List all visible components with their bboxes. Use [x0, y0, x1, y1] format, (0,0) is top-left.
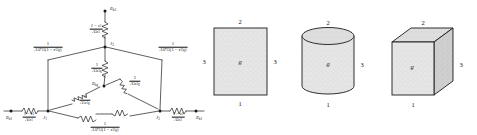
resistor-label-surface-2: 1 − ε2 A2ε2	[172, 112, 185, 123]
node-dots	[10, 10, 198, 113]
rectangle-label-left: 3	[202, 58, 205, 65]
resistor-label-view-12: 1 A1F12(1 − τ12g)	[91, 122, 120, 133]
node-dot-j1	[47, 110, 50, 113]
rectangle-label-bottom: 1	[238, 100, 241, 107]
resistor-label-gas-1: 1 A1ε1g	[79, 95, 90, 106]
wire-ebg-j2-b	[128, 94, 158, 109]
cube-label-bottom: 1	[411, 101, 414, 108]
resistor-surface-3	[102, 22, 108, 38]
resistor-label-gas-2: 1 A2ε2g	[129, 76, 140, 87]
resistor-view-12-right	[112, 110, 128, 116]
node-label-eb1: Eb1	[6, 115, 12, 121]
node-label-ebg: Ebg	[92, 81, 98, 87]
node-dot-ebg	[103, 85, 106, 88]
wire-j1-bottom	[49, 111, 78, 118]
resistor-gas-2	[120, 79, 127, 94]
cylinder-top-ellipse	[302, 28, 354, 45]
cylinder-gas-label: g	[326, 60, 329, 67]
node-label-j1: J1	[43, 115, 47, 121]
rectangle-gas-label: g	[238, 58, 241, 65]
resistor-label-view-23: 1 A2F23(1 − τ23g)	[159, 42, 188, 53]
node-dot-eb3	[104, 10, 107, 13]
wire-j3-j2-upper	[106, 47, 162, 60]
node-dot-j2	[159, 110, 162, 113]
figure-root: Eb3 J3 Ebg J1 J2 Eb1 Eb2 1 − ε3 A3ε3 1 A…	[0, 0, 477, 135]
wire-ebg-j2-a	[106, 79, 120, 85]
resistor-label-surface-1: 1 − ε1 A1ε1	[23, 112, 36, 123]
cylinder-label-bottom: 1	[326, 101, 329, 108]
rectangle-label-top: 2	[238, 18, 241, 25]
wire-j3-j2-lower	[160, 60, 162, 110]
resistor-label-gas-3: 1 A3ε3g	[91, 63, 102, 74]
cube-label-top: 2	[421, 19, 424, 26]
resistor-label-surface-3: 1 − ε3 A3ε3	[90, 24, 103, 35]
shape-cube	[392, 28, 453, 95]
resistor-label-view-13: 1 A1F13(1 − τ13g)	[34, 42, 63, 53]
wire-j2-bottom	[130, 111, 159, 116]
rectangle-label-right: 3	[273, 58, 276, 65]
node-dot-j3	[104, 46, 107, 49]
enclosure-shapes-panel: 2 3 1 3 g 2 3 1 g 2 3 1 g	[190, 0, 477, 135]
cube-label-right: 3	[459, 61, 462, 68]
resistor-gas-3	[102, 61, 108, 77]
shapes-svg	[190, 0, 477, 135]
wire-ebg-j1-b	[50, 104, 72, 110]
node-label-j2: J2	[156, 115, 160, 121]
node-label-eb3: Eb3	[110, 6, 116, 12]
cylinder-label-right: 3	[360, 61, 363, 68]
node-dot-eb1	[10, 110, 13, 113]
cylinder-label-top: 2	[326, 19, 329, 26]
node-label-j3: J3	[110, 41, 114, 47]
cube-gas-label: g	[410, 63, 413, 70]
wire-ebg-j1-a	[86, 87, 100, 94]
